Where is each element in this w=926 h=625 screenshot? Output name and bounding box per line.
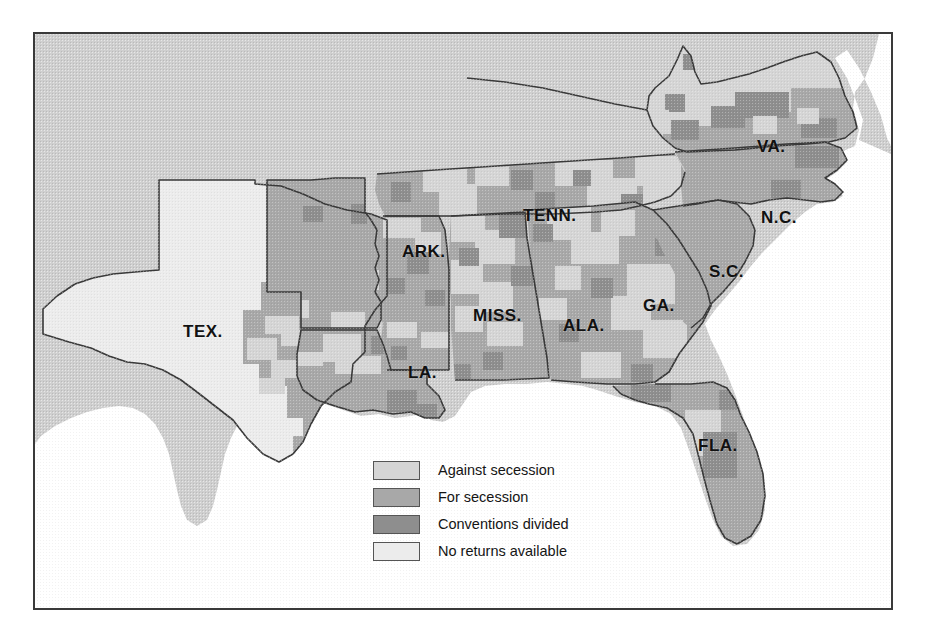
legend-item-no-returns-available: No returns available [373, 538, 643, 565]
legend-swatch-for-secession [373, 488, 420, 507]
map-legend: Against secession For secession Conventi… [373, 457, 643, 565]
legend-item-against-secession: Against secession [373, 457, 643, 484]
legend-label-for-secession: For secession [438, 490, 528, 505]
legend-label-conventions-divided: Conventions divided [438, 517, 569, 532]
legend-label-against-secession: Against secession [438, 463, 555, 478]
legend-swatch-no-returns-available [373, 542, 420, 561]
legend-item-for-secession: For secession [373, 484, 643, 511]
legend-swatch-conventions-divided [373, 515, 420, 534]
legend-item-conventions-divided: Conventions divided [373, 511, 643, 538]
legend-swatch-against-secession [373, 461, 420, 480]
legend-label-no-returns-available: No returns available [438, 544, 567, 559]
map-frame: TEX. ARK. LA. MISS. ALA. TENN. GA. FLA. … [33, 32, 893, 610]
